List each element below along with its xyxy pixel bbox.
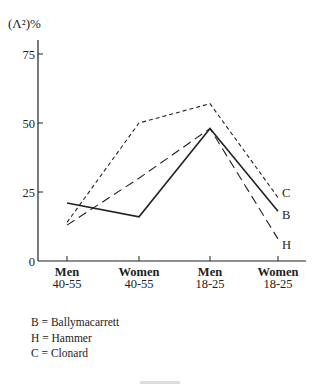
- svg-text:25: 25: [23, 186, 36, 200]
- svg-text:40-55: 40-55: [124, 277, 153, 291]
- legend-item-b: B = Ballymacarrett: [31, 315, 119, 331]
- line-chart: (Λ²)% 0255075Men40-55Women40-55Men18-25W…: [0, 0, 321, 310]
- end-label-b: B: [282, 208, 290, 222]
- legend-item-h: H = Hammer: [31, 331, 119, 347]
- svg-text:40-55: 40-55: [52, 277, 81, 291]
- end-label-h: H: [282, 238, 291, 252]
- series-lines: [67, 104, 278, 239]
- series-line-c: [67, 104, 278, 223]
- svg-text:50: 50: [23, 117, 36, 131]
- legend: B = Ballymacarrett H = Hammer C = Clonar…: [31, 315, 119, 362]
- figure-caption-cutoff: [140, 381, 180, 384]
- series-line-h: [67, 129, 278, 239]
- svg-text:75: 75: [23, 48, 36, 62]
- legend-item-c: C = Clonard: [31, 346, 119, 362]
- svg-text:18-25: 18-25: [263, 277, 292, 291]
- series-line-b: [67, 129, 278, 217]
- series-end-labels: BHC: [282, 186, 291, 252]
- end-label-c: C: [282, 186, 290, 200]
- axes: 0255075Men40-55Women40-55Men18-25Women18…: [23, 40, 307, 291]
- y-axis-label: (Λ²)%: [8, 16, 41, 31]
- svg-text:0: 0: [29, 255, 35, 269]
- svg-text:18-25: 18-25: [195, 277, 224, 291]
